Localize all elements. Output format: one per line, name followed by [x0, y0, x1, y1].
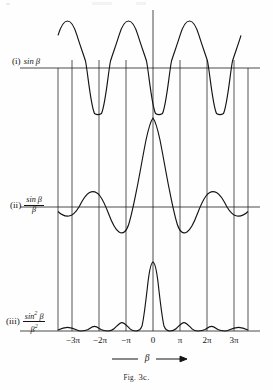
row-numeral-iii: (iii) — [6, 317, 20, 326]
tick-label-zero: 0 — [151, 336, 156, 345]
row-numeral-ii: (ii) — [10, 201, 21, 210]
numerator-variable-iii: β — [39, 312, 43, 321]
tick-label-plus-3pi: 3π — [229, 336, 238, 345]
tick-label-minus-2pi: −2π — [93, 336, 107, 345]
tick-label-plus-2pi: 2π — [202, 336, 211, 345]
row-expression-iii: sin2 β β2 — [23, 310, 46, 334]
fraction-numerator-iii: sin2 β — [23, 310, 46, 322]
tick-label-minus-pi: −π — [121, 336, 131, 345]
tick-label-plus-pi: π — [178, 336, 183, 345]
fraction-denominator-iii: β2 — [23, 322, 46, 333]
row-expression-i: sin β — [24, 57, 40, 66]
row-label-i: (i) sin β — [12, 57, 40, 66]
tick-label-minus-3pi: −3π — [66, 336, 80, 345]
denominator-exponent-iii: 2 — [35, 323, 38, 329]
row-label-ii: (ii) sin β β — [10, 196, 44, 214]
beta-arrow-head — [180, 356, 187, 362]
row-numeral-i: (i) — [12, 57, 21, 66]
numerator-base-iii: sin — [25, 312, 35, 321]
figure-caption: Fig. 3c. — [0, 372, 273, 382]
row-label-iii: (iii) sin2 β β2 — [6, 310, 45, 334]
numerator-exponent-iii: 2 — [34, 310, 37, 316]
fraction-denominator-ii: β — [24, 206, 44, 215]
caption-prefix: Fig. — [123, 374, 136, 382]
caption-number: 3c. — [138, 372, 149, 382]
axis-label-beta: β — [145, 353, 150, 363]
row-expression-ii: sin β β — [24, 196, 44, 214]
figure-page: (i) sin β (ii) sin β β (iii) sin2 β β2 −… — [0, 0, 273, 390]
